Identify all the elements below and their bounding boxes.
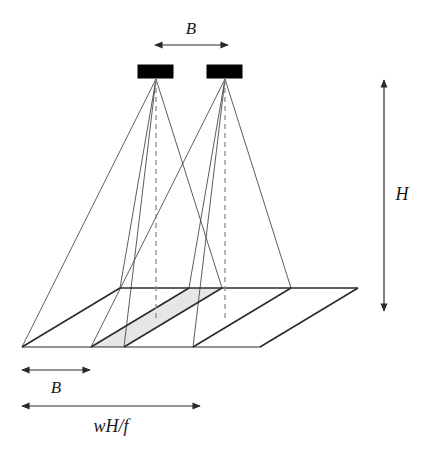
baseline-top-dimension: B xyxy=(155,19,228,45)
height-dimension: H xyxy=(384,80,410,311)
ground-right-edge xyxy=(260,288,358,347)
nadir-lines-group xyxy=(156,79,225,318)
diagram-canvas: B B wH/f H xyxy=(0,0,434,456)
baseline-bottom-dimension: B xyxy=(22,370,90,397)
right-camera xyxy=(207,65,242,78)
footprint-width-dimension: wH/f xyxy=(22,406,200,436)
right-ray-far-left xyxy=(189,79,225,288)
left-ray-near-right xyxy=(124,79,156,347)
baseline-bottom-label: B xyxy=(51,378,62,397)
right-ray-far-right xyxy=(225,79,291,288)
camera-group xyxy=(138,65,242,78)
height-label: H xyxy=(395,184,410,204)
baseline-top-label: B xyxy=(186,19,197,38)
right-ray-near-right xyxy=(193,79,225,347)
footprint-width-label: wH/f xyxy=(93,416,131,436)
left-camera xyxy=(138,65,173,78)
left-ray-far-left xyxy=(120,79,156,288)
stereo-coverage-diagram: B B wH/f H xyxy=(0,0,434,456)
